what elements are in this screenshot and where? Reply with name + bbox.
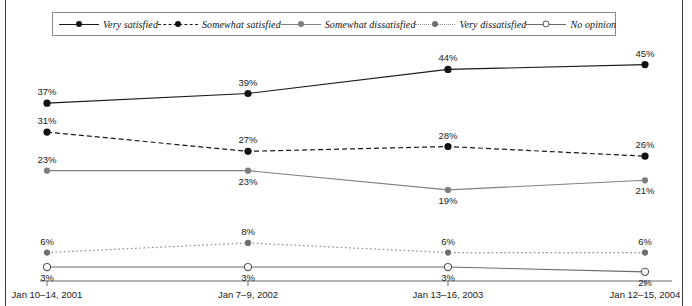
series-line-somewhat-dissatisfied (47, 171, 645, 190)
data-point[interactable] (641, 153, 648, 160)
data-point[interactable] (245, 240, 251, 246)
data-point[interactable] (244, 148, 251, 155)
data-point[interactable] (642, 177, 648, 183)
data-point[interactable] (244, 90, 251, 97)
data-point[interactable] (445, 249, 451, 255)
data-point-label: 19% (438, 195, 457, 206)
data-point-label: 3% (241, 272, 255, 283)
data-point-label: 6% (638, 236, 652, 247)
data-point-label: 21% (635, 185, 654, 196)
axis-layer (40, 281, 672, 286)
x-axis-label: Jan 7–9, 2002 (218, 289, 278, 300)
series-line-very-satisfied (47, 65, 645, 104)
data-point[interactable] (642, 249, 648, 255)
data-point[interactable] (444, 143, 451, 150)
data-point[interactable] (245, 168, 251, 174)
chart-page: Very satisfied Somewhat satisfied Somewh… (0, 0, 692, 306)
chart-plot-area (0, 0, 692, 306)
data-point-label: 3% (441, 272, 455, 283)
series-line-very-dissatisfied (47, 243, 645, 253)
data-point-label: 6% (40, 236, 54, 247)
data-point-label: 45% (635, 48, 654, 59)
data-point-label: 23% (238, 176, 257, 187)
data-point[interactable] (445, 187, 451, 193)
series-line-no-opinion (47, 267, 645, 272)
data-point[interactable] (244, 263, 251, 270)
data-point[interactable] (641, 268, 648, 275)
data-point-label: 6% (441, 236, 455, 247)
data-point[interactable] (43, 263, 50, 270)
data-point-label: 27% (238, 134, 257, 145)
series-layer (43, 61, 648, 275)
data-point-label: 23% (37, 154, 56, 165)
data-point-label: 39% (238, 77, 257, 88)
data-point-label: 3% (40, 272, 54, 283)
data-point-label: 28% (438, 130, 457, 141)
series-line-somewhat-satisfied (47, 132, 645, 156)
x-axis-label: Jan 10–14, 2001 (12, 289, 83, 300)
data-point-label: 31% (37, 115, 56, 126)
data-point-label: 44% (438, 52, 457, 63)
data-point-label: 8% (241, 226, 255, 237)
data-point[interactable] (444, 263, 451, 270)
data-point-label: 2% (638, 277, 652, 288)
data-point[interactable] (444, 66, 451, 73)
data-point-label: 37% (37, 86, 56, 97)
data-point[interactable] (44, 168, 50, 174)
data-point[interactable] (44, 249, 50, 255)
data-point-label: 26% (635, 139, 654, 150)
data-point[interactable] (641, 61, 648, 68)
data-point[interactable] (43, 100, 50, 107)
x-axis-label: Jan 13–16, 2003 (413, 289, 484, 300)
data-point[interactable] (43, 128, 50, 135)
x-axis-label: Jan 12–15, 2004 (610, 289, 681, 300)
